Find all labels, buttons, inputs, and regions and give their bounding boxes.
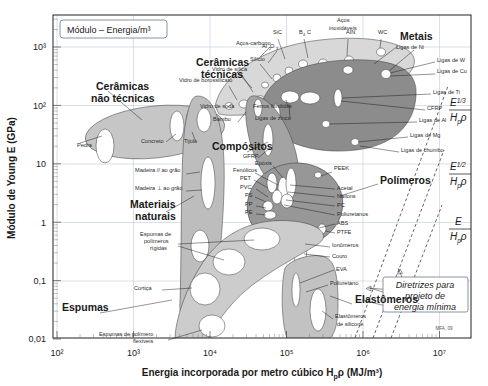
material-label-34: Acetal (337, 185, 353, 191)
material-label-12: Vidro de borossilicato (179, 77, 232, 83)
guideline-note-line-0: Diretrizes para (396, 280, 455, 290)
material-label-22: Ligas de Al (419, 117, 446, 123)
material-label-38: ABS (337, 220, 348, 226)
material-label-3: C (307, 29, 311, 35)
chart-title-box: Módulo – Energia/m³ (60, 20, 167, 38)
region-elastomeros (282, 256, 338, 340)
material-label-18: Ligas de W (437, 57, 466, 63)
material-label-6: AIN (346, 29, 355, 35)
y-tick-1: 10² (33, 101, 46, 111)
material-label-24: Ligas de chumbo (401, 147, 444, 153)
x-tick-0: 10² (50, 348, 63, 358)
material-label-21: CFRP (427, 105, 442, 111)
material-label-48: Tijolo (184, 138, 197, 144)
x-tick-2: 10⁴ (203, 348, 217, 358)
material-label-29: PVC (240, 184, 252, 190)
y-tick-0: 10³ (33, 42, 46, 52)
material-label-25: GFRP (243, 153, 259, 159)
x-tick-5: 10⁷ (433, 348, 446, 358)
material-label-50: Madeira ⊥ ao grão (135, 185, 182, 191)
material-label-54: Cortiça (134, 285, 153, 291)
family-label-0: Cerâmicas (96, 80, 149, 92)
material-label-39: PTFE (337, 229, 352, 235)
svg-text:10²: 10² (50, 348, 63, 358)
material-label-56: flexíveis (133, 338, 153, 344)
material-label-41: Couro (332, 253, 347, 259)
family-label-4: Metais (400, 30, 433, 42)
material-label-40: Ionômeros (332, 242, 359, 248)
material-label-51: Espumas de (140, 231, 171, 237)
family-label-5: Compósitos (212, 140, 273, 152)
material-label-26: Epóxis (255, 160, 272, 166)
family-label-7: Materiais (130, 198, 176, 210)
material-label-30: PS (245, 192, 253, 198)
material-label-32: PE (245, 209, 253, 215)
family-label-1: não técnicas (91, 92, 155, 104)
material-label-45: de silicone (337, 321, 363, 327)
material-label-17: Ligas de Ni (396, 44, 424, 50)
material-label-27: Fenólicos (233, 167, 257, 173)
material-label-36: PC (337, 202, 345, 208)
x-tick-1: 10³ (127, 348, 140, 358)
svg-text:10³: 10³ (33, 42, 46, 52)
svg-text:10⁵: 10⁵ (280, 348, 294, 358)
family-label-8: naturais (135, 210, 176, 222)
material-label-31: PP (245, 201, 253, 207)
material-label-7: WC (378, 29, 387, 35)
x-tick-3: 10⁵ (280, 348, 294, 358)
svg-text:E: E (455, 216, 462, 227)
y-tick-3: 1 (41, 218, 46, 228)
svg-text:10³: 10³ (127, 348, 140, 358)
material-label-43: Poliuretano (330, 280, 358, 286)
y-tick-4: 0,1 (33, 276, 46, 286)
material-label-16: Bambu (213, 116, 231, 122)
y-tick-5: 0,01 (28, 334, 46, 344)
material-label-46: Pedra (77, 142, 93, 148)
material-label-23: Ligas de Mg (410, 132, 440, 138)
svg-text:10⁴: 10⁴ (203, 348, 217, 358)
y-tick-2: 10 (36, 159, 46, 169)
svg-text:10⁶: 10⁶ (356, 348, 370, 358)
material-label-20: Ligas de Ti (433, 89, 460, 95)
material-label-42: EVA (336, 266, 347, 272)
svg-text:0,1: 0,1 (33, 276, 46, 286)
x-tick-4: 10⁶ (356, 348, 370, 358)
svg-text:1: 1 (41, 218, 46, 228)
material-label-10: Silício (250, 56, 265, 62)
material-label-53: rígidas (150, 245, 167, 251)
chart-credit: MFA, 09 (435, 326, 453, 331)
material-label-28: PET (240, 175, 251, 181)
material-label-49: Madeira // ao grão (135, 167, 180, 173)
svg-text:10⁷: 10⁷ (433, 348, 446, 358)
material-label-35: Náilons (337, 193, 356, 199)
material-label-15: Ligas de zinco (255, 115, 291, 121)
material-label-33: PEEK (334, 165, 349, 171)
material-label-11: Vidro de sílica (212, 66, 248, 72)
material-label-55: Espumas de polímero (99, 331, 153, 337)
material-label-37: Poliuretanos (337, 211, 368, 217)
ashby-chart-page: 10² 10³ 10⁴ 10⁵ 10⁶ 10⁷ 10³ 10² 10 1 0,1… (0, 0, 488, 386)
material-label-47: Concreto (141, 138, 164, 144)
svg-text:10²: 10² (33, 101, 46, 111)
family-label-10: Elastômeros (355, 293, 418, 305)
material-label-44: Elastômeros (335, 313, 366, 319)
material-label-13: Vidro de soda (200, 103, 235, 109)
material-label-8: Al (262, 43, 267, 49)
material-label-14: Ferros fundidos (253, 103, 292, 109)
svg-text:10: 10 (36, 159, 46, 169)
material-label-19: Ligas de Cu (437, 68, 467, 74)
material-label-4: Aços (337, 17, 350, 23)
ashby-chart-svg: 10² 10³ 10⁴ 10⁵ 10⁶ 10⁷ 10³ 10² 10 1 0,1… (0, 0, 488, 386)
family-label-9: Espumas (62, 301, 109, 313)
svg-text:0,01: 0,01 (28, 334, 46, 344)
chart-title: Módulo – Energia/m³ (67, 25, 151, 35)
material-label-1: SiC (273, 29, 282, 35)
y-axis-title: Módulo de Young E (GPa) (6, 117, 17, 239)
material-label-52: polímeros (144, 238, 169, 244)
family-label-6: Polímeros (380, 174, 431, 186)
